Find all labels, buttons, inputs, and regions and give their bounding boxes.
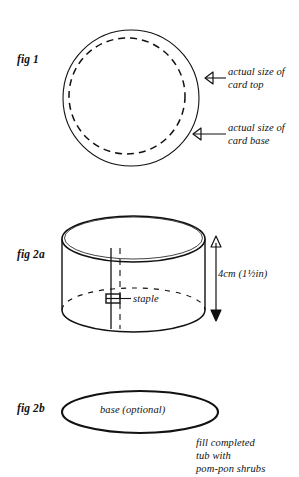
card-top-callout-arrow (205, 72, 226, 84)
base-optional-label: base (optional) (100, 404, 165, 417)
fill-instruction-note: fill completedtub withpom-pon shrubs (196, 437, 265, 475)
callout-card-base-line2: card base (228, 135, 270, 146)
callout-card-top-line1: actual size of (228, 66, 285, 77)
fill-note-line1: fill completed (196, 437, 255, 448)
callout-card-base-line1: actual size of (228, 122, 285, 133)
cylinder-top-ellipse (62, 216, 205, 262)
callout-card-top-line2: card top (228, 79, 264, 90)
fig2a-group (62, 216, 221, 332)
card-base-callout-arrow (193, 128, 226, 140)
cylinder-bottom-front-arc (62, 310, 205, 332)
staple-label: staple (133, 293, 159, 306)
fig2b-caption: fig 2b (17, 401, 45, 415)
height-dimension-label: 4cm (1½in) (218, 268, 267, 281)
fill-note-line3: pom-pon shrubs (196, 463, 265, 474)
callout-card-base: actual size ofcard base (228, 122, 285, 148)
card-base-circle (69, 38, 185, 154)
fig1-group (63, 30, 226, 166)
card-top-circle (63, 30, 199, 166)
fig2a-caption: fig 2a (17, 247, 45, 261)
callout-card-top: actual size ofcard top (228, 66, 285, 92)
diagram-page: fig 1 actual size ofcard top actual size… (0, 0, 299, 477)
fig1-caption: fig 1 (17, 52, 39, 66)
fill-note-line2: tub with (196, 450, 231, 461)
